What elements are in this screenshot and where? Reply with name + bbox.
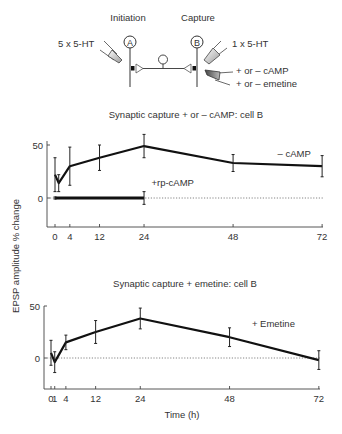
synapse-b-triangle-icon bbox=[184, 64, 191, 73]
synapse-a-triangle-icon bbox=[136, 64, 143, 73]
series-annotation: +rp-cAMP bbox=[151, 177, 194, 188]
x-tick-label: 12 bbox=[94, 231, 105, 242]
y-axis-label: EPSP amplitude % change bbox=[10, 199, 21, 313]
x-tick-label: 24 bbox=[135, 393, 146, 404]
y-tick-label: 50 bbox=[32, 140, 43, 151]
cell-b-terminal-icon bbox=[193, 66, 197, 71]
chart-camp: Synaptic capture + or – cAMP: cell B 050… bbox=[32, 109, 327, 242]
stim-a-label: 5 x 5-HT bbox=[58, 38, 95, 49]
pipette-b1-icon bbox=[204, 48, 220, 64]
x-tick-label: 4 bbox=[63, 393, 68, 404]
target-neuron-soma bbox=[159, 55, 168, 64]
stim-b-label: 1 x 5-HT bbox=[232, 38, 269, 49]
x-tick-label: 1 bbox=[52, 393, 57, 404]
x-axis-label: Time (h) bbox=[164, 409, 199, 420]
capture-label: Capture bbox=[181, 12, 215, 23]
x-tick-label: 72 bbox=[314, 393, 325, 404]
series-annotation: + Emetine bbox=[252, 318, 295, 329]
cell-b-label: B bbox=[194, 38, 200, 48]
drug-label-camp: + or – cAMP bbox=[236, 65, 289, 76]
cell-a-terminal-icon bbox=[131, 66, 135, 71]
drug-label-emetine: + or – emetine bbox=[236, 78, 297, 89]
cell-a-label: A bbox=[127, 38, 133, 48]
chart-emetine-title: Synaptic capture + emetine: cell B bbox=[113, 278, 257, 289]
x-tick-label: 0 bbox=[52, 231, 57, 242]
initiation-label: Initiation bbox=[110, 12, 145, 23]
y-tick-label: 50 bbox=[29, 301, 40, 312]
pipette-b2-edge bbox=[215, 80, 230, 85]
pipette-b2-icon bbox=[205, 70, 220, 80]
x-tick-label: 48 bbox=[224, 393, 235, 404]
chart-emetine: Synaptic capture + emetine: cell B 05001… bbox=[29, 278, 324, 404]
x-tick-label: 12 bbox=[90, 393, 101, 404]
y-tick-label: 0 bbox=[38, 193, 43, 204]
x-tick-label: 24 bbox=[139, 231, 150, 242]
chart-camp-title: Synaptic capture + or – cAMP: cell B bbox=[109, 109, 263, 120]
y-tick-label: 0 bbox=[35, 353, 40, 364]
schematic-diagram: Initiation Capture A B 5 x 5-HT 1 x 5-HT bbox=[58, 12, 297, 89]
series-annotation: – cAMP bbox=[278, 148, 311, 159]
figure: Initiation Capture A B 5 x 5-HT 1 x 5-HT bbox=[0, 0, 342, 434]
x-tick-label: 48 bbox=[228, 231, 239, 242]
x-tick-label: 72 bbox=[317, 231, 328, 242]
x-tick-label: 4 bbox=[67, 231, 72, 242]
